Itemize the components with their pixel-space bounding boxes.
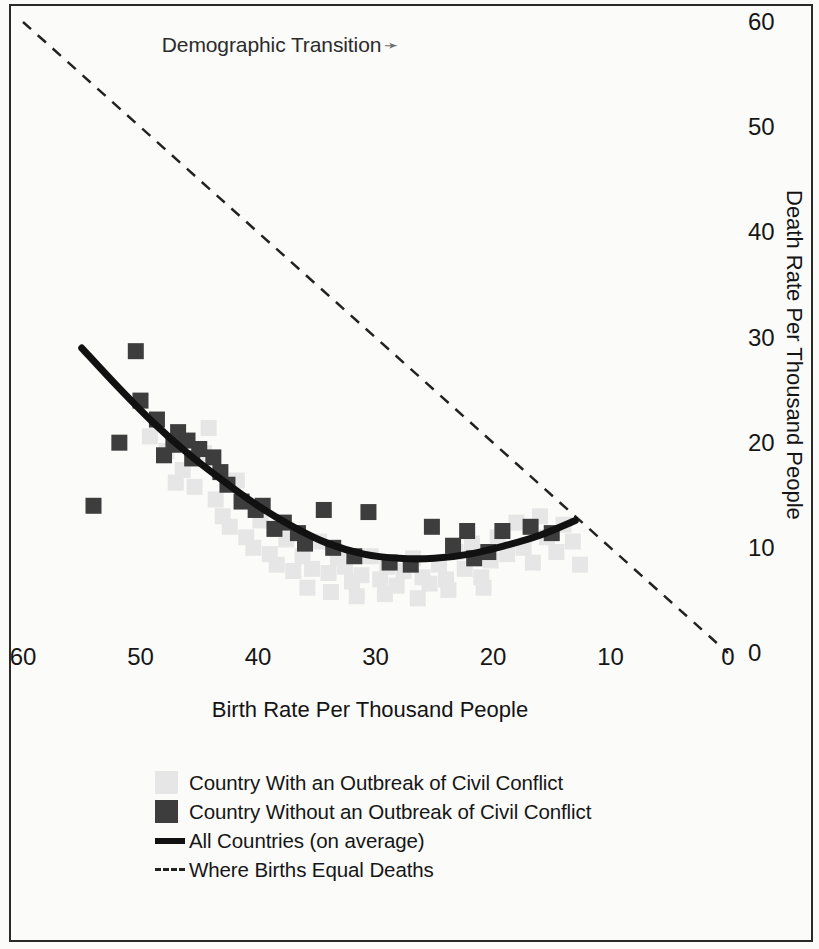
data-point-marker [269, 557, 285, 573]
legend-item-2: All Countries (on average) [155, 826, 715, 855]
legend-dashed-line-icon [155, 868, 185, 871]
legend-swatch-dark-icon [155, 800, 178, 823]
data-point-marker [360, 504, 376, 520]
x-tick-label-50: 50 [127, 643, 154, 671]
legend-key-0 [155, 770, 189, 796]
y-tick-label-40: 40 [748, 218, 775, 246]
legend-item-3: Where Births Equal Deaths [155, 855, 715, 884]
data-point-marker [525, 555, 541, 571]
data-point-marker [201, 420, 217, 436]
legend-item-0: Country With an Outbreak of Civil Confli… [155, 768, 715, 797]
data-point-marker [86, 498, 102, 514]
data-point-marker [509, 515, 525, 531]
data-point-marker [476, 580, 492, 596]
y-tick-label-60: 60 [748, 8, 775, 36]
legend-label-0: Country With an Outbreak of Civil Confli… [189, 771, 563, 795]
chart-legend: Country With an Outbreak of Civil Confli… [155, 768, 715, 884]
x-tick-label-0: 0 [721, 643, 734, 671]
y-axis-title: Death Rate Per Thousand People [781, 190, 807, 520]
legend-swatch-light-icon [155, 771, 178, 794]
data-point-marker [422, 576, 438, 592]
chart-annotation-text: Demographic Transition [162, 33, 382, 56]
data-point-marker [323, 584, 339, 600]
legend-label-2: All Countries (on average) [189, 829, 425, 853]
data-point-marker [142, 428, 158, 444]
y-tick-label-50: 50 [748, 113, 775, 141]
x-tick-label-40: 40 [245, 643, 272, 671]
data-point-marker [321, 565, 337, 581]
chart-series-layer [0, 0, 819, 700]
data-point-marker [299, 580, 315, 596]
legend-key-3 [155, 857, 189, 883]
data-point-marker [565, 534, 581, 550]
data-point-marker [245, 540, 261, 556]
x-axis-title: Birth Rate Per Thousand People [0, 697, 740, 723]
data-point-marker [353, 567, 369, 583]
data-point-marker [168, 475, 184, 491]
legend-label-3: Where Births Equal Deaths [189, 858, 434, 882]
data-point-marker [316, 502, 332, 518]
y-tick-label-0: 0 [748, 639, 761, 667]
data-point-marker [572, 557, 588, 573]
arrow-right-icon: ➛ [384, 36, 398, 55]
data-point-marker [208, 491, 224, 507]
data-point-marker [494, 523, 510, 539]
legend-key-2 [155, 828, 189, 854]
plot-area: Demographic Transition➛ 6050403020100 01… [0, 0, 819, 700]
legend-solid-line-icon [155, 838, 185, 844]
legend-key-1 [155, 799, 189, 825]
data-point-marker [128, 343, 144, 359]
data-point-marker [445, 538, 461, 554]
chart-figure: Demographic Transition➛ 6050403020100 01… [0, 0, 819, 949]
chart-annotation-label: Demographic Transition➛ [0, 33, 560, 57]
data-point-marker [410, 590, 426, 606]
data-point-marker [349, 588, 365, 604]
x-tick-label-20: 20 [480, 643, 507, 671]
y-tick-label-30: 30 [748, 324, 775, 352]
data-point-marker [111, 435, 127, 451]
data-point-marker [377, 586, 393, 602]
data-point-marker [440, 582, 456, 598]
legend-label-1: Country Without an Outbreak of Civil Con… [189, 800, 591, 824]
x-tick-label-30: 30 [362, 643, 389, 671]
data-point-marker [459, 523, 475, 539]
data-point-marker [285, 563, 301, 579]
y-tick-label-10: 10 [748, 534, 775, 562]
data-point-marker [222, 519, 238, 535]
data-point-marker [187, 479, 203, 495]
x-tick-label-60: 60 [10, 643, 37, 671]
y-tick-label-20: 20 [748, 429, 775, 457]
data-point-marker [205, 449, 221, 465]
data-point-marker [304, 561, 320, 577]
data-point-marker [424, 519, 440, 535]
x-tick-label-10: 10 [597, 643, 624, 671]
data-point-marker [548, 544, 564, 560]
data-point-marker [523, 519, 539, 535]
legend-item-1: Country Without an Outbreak of Civil Con… [155, 797, 715, 826]
